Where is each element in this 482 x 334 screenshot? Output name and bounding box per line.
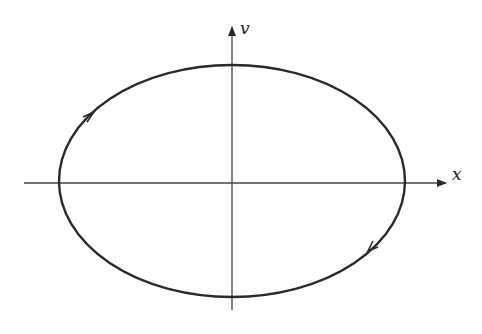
phase-diagram: x v	[0, 0, 482, 334]
v-axis-label: v	[240, 18, 250, 38]
x-axis-label: x	[452, 164, 462, 184]
